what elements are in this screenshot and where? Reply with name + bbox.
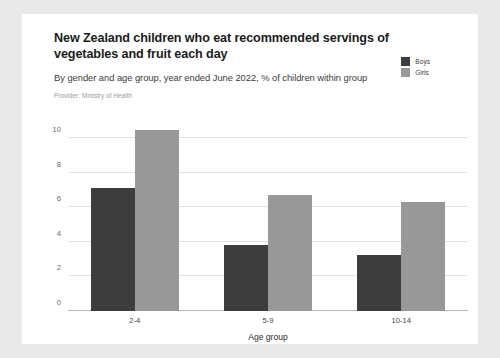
y-axis-tick-label: 10 [53, 125, 61, 134]
bar-boys-5-9[interactable] [224, 245, 268, 311]
x-axis-label: Age group [68, 332, 468, 342]
bar-group-2-4 [91, 121, 179, 311]
legend-item-girls[interactable]: Girls [401, 68, 430, 77]
bar-series-container [68, 121, 468, 311]
x-axis-ticks: 2-45-910-14 [68, 316, 468, 325]
chart-card: New Zealand children who eat recommended… [22, 14, 478, 344]
y-axis-tick-label: 2 [57, 263, 61, 272]
legend-label: Boys [415, 58, 430, 65]
legend-swatch-icon [401, 57, 410, 66]
chart-subtitle: By gender and age group, year ended June… [54, 71, 404, 84]
y-axis-tick-label: 4 [57, 228, 61, 237]
x-axis-tick-label: 2-4 [91, 316, 179, 325]
x-axis-tick-label: 5-9 [224, 316, 312, 325]
chart-legend: BoysGirls [401, 57, 430, 77]
bar-girls-5-9[interactable] [268, 195, 312, 311]
bar-group-5-9 [224, 121, 312, 311]
chart-header: New Zealand children who eat recommended… [54, 30, 404, 99]
y-axis-tick-label: 0 [57, 298, 61, 307]
plot-area: 0246810 [68, 121, 468, 311]
chart-provider: Provider: Ministry of Health [54, 92, 404, 99]
bar-group-10-14 [357, 121, 445, 311]
legend-item-boys[interactable]: Boys [401, 57, 430, 66]
bar-boys-10-14[interactable] [357, 255, 401, 311]
bar-boys-2-4[interactable] [91, 188, 135, 311]
page-title: New Zealand children who eat recommended… [54, 30, 404, 62]
x-axis-tick-label: 10-14 [357, 316, 445, 325]
y-axis-tick-label: 8 [57, 159, 61, 168]
legend-swatch-icon [401, 68, 410, 77]
legend-label: Girls [415, 69, 429, 76]
bar-girls-2-4[interactable] [135, 130, 179, 311]
bar-girls-10-14[interactable] [401, 202, 445, 311]
y-axis-tick-label: 6 [57, 194, 61, 203]
